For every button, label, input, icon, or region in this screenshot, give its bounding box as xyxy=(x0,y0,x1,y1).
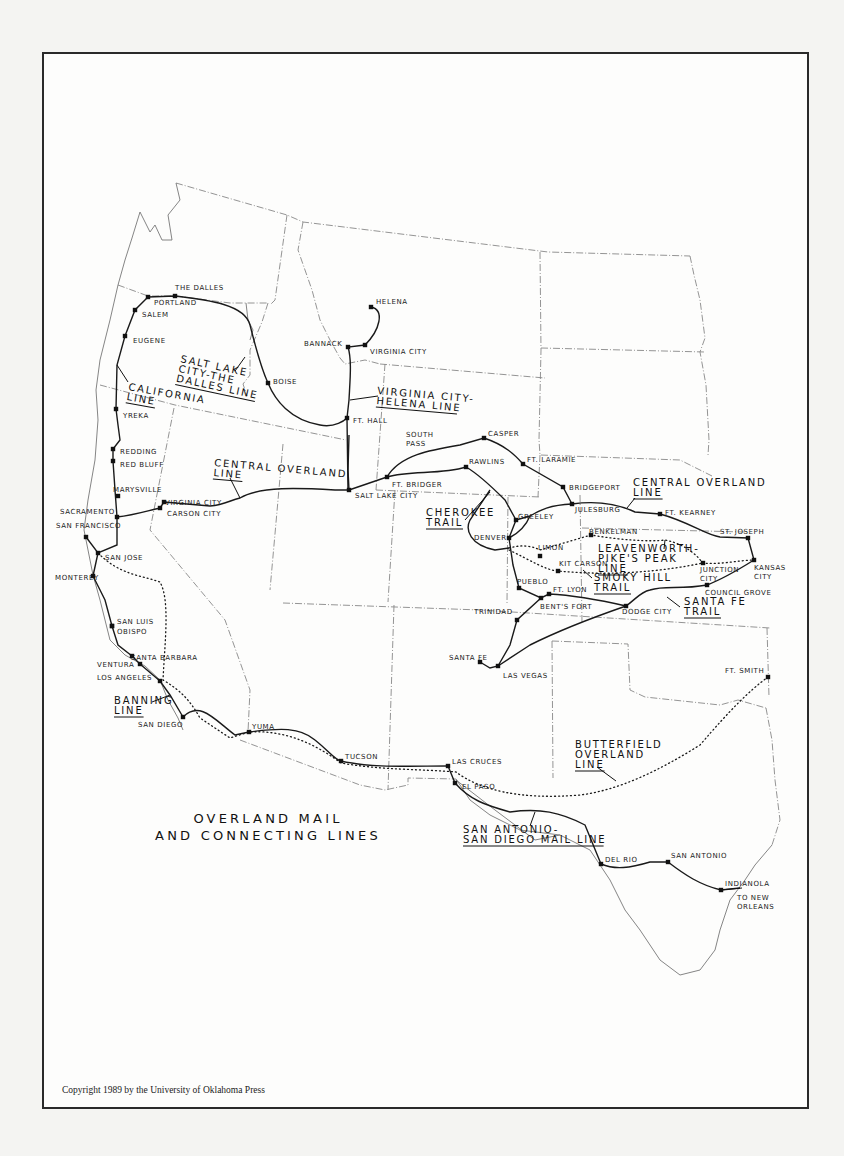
town-marker-icon xyxy=(547,592,551,596)
town-marker-icon xyxy=(116,494,120,498)
town-marker-icon xyxy=(158,679,162,683)
town-label: FT. SMITH xyxy=(725,667,764,675)
town-marker-icon xyxy=(181,715,185,719)
town-label: CITY xyxy=(700,575,718,583)
town-marker-icon xyxy=(453,781,457,785)
town-label: MARYSVILLE xyxy=(113,486,162,494)
town-marker-icon xyxy=(464,465,468,469)
town-label: VENTURA xyxy=(97,661,134,669)
town-label: CARSON CITY xyxy=(167,510,221,518)
town-label: SAN FRANCISCO xyxy=(56,522,121,530)
town-label: TO NEW xyxy=(736,894,769,902)
town-marker-icon xyxy=(146,295,150,299)
town-label: MONTEREY xyxy=(55,574,99,582)
town-label: SAN JOSE xyxy=(105,554,143,562)
town-marker-icon xyxy=(111,459,115,463)
svg-text:LINE: LINE xyxy=(575,759,605,770)
route-label-leavenworth: LEAVENWORTH-PIKE'S PEAKLINE xyxy=(598,543,700,575)
town-label: TRINIDAD xyxy=(473,608,513,616)
town-label: TUCSON xyxy=(344,753,378,761)
town-marker-icon xyxy=(599,862,603,866)
copyright-notice: Copyright 1989 by the University of Okla… xyxy=(62,1085,265,1095)
town-label: FT. LYON xyxy=(553,586,587,594)
svg-text:LINE: LINE xyxy=(633,487,663,498)
overland-mail-map: THE DALLESPORTLANDSALEMEUGENEHELENABANNA… xyxy=(0,0,844,1156)
town-label: CITY xyxy=(754,573,772,581)
town-marker-icon xyxy=(539,596,543,600)
town-label: LOS ANGELES xyxy=(97,674,152,682)
route-labels: SALT LAKECITY-THEDALLES LINECALIFORNIALI… xyxy=(114,353,766,846)
town-label: DODGE CITY xyxy=(622,608,672,616)
town-marker-icon xyxy=(496,664,500,668)
svg-text:SAN DIEGO MAIL LINE: SAN DIEGO MAIL LINE xyxy=(463,834,607,845)
town-label: SAN ANTONIO xyxy=(671,852,727,860)
town-marker-icon xyxy=(521,462,525,466)
town-marker-icon xyxy=(111,447,115,451)
svg-text:LINE: LINE xyxy=(114,705,144,716)
svg-text:TRAIL: TRAIL xyxy=(593,582,631,593)
route-label-cherokee: CHEROKEETRAIL xyxy=(425,507,495,529)
town-label: JULESBURG xyxy=(574,506,621,514)
title-line-1: OVERLAND MAIL xyxy=(193,811,342,826)
town-label: THE DALLES xyxy=(174,284,224,292)
title-line-2: AND CONNECTING LINES xyxy=(155,828,381,843)
route-label-butterfield: BUTTERFIELDOVERLANDLINE xyxy=(575,739,663,771)
map-title: OVERLAND MAIL AND CONNECTING LINES xyxy=(155,811,381,843)
town-marker-icon xyxy=(347,488,351,492)
town-label: RAWLINS xyxy=(469,458,505,466)
town-label: REDDING xyxy=(120,448,157,456)
town-label: PASS xyxy=(406,440,426,448)
town-marker-icon xyxy=(701,561,705,565)
town-marker-icon xyxy=(705,583,709,587)
town-marker-icon xyxy=(515,618,519,622)
town-marker-icon xyxy=(96,551,100,555)
town-marker-icon xyxy=(173,294,177,298)
route-label-santa-fe: SANTA FETRAIL xyxy=(683,596,747,618)
town-label: BENT'S FORT xyxy=(540,603,592,611)
town-marker-icon xyxy=(766,675,770,679)
route-label-banning: BANNINGLINE xyxy=(114,695,173,717)
town-label: LAS CRUCES xyxy=(452,758,502,766)
town-label: SALEM xyxy=(142,311,169,319)
town-marker-icon xyxy=(507,536,511,540)
town-marker-icon xyxy=(385,475,389,479)
town-marker-icon xyxy=(561,485,565,489)
town-marker-icon xyxy=(123,334,127,338)
town-marker-icon xyxy=(266,381,270,385)
town-marker-icon xyxy=(110,624,114,628)
town-label: EL PASO xyxy=(462,783,495,791)
town-label: HELENA xyxy=(376,298,408,306)
town-label: GREELEY xyxy=(518,513,554,521)
town-label: SOUTH xyxy=(406,431,434,439)
town-label: VIRGINIA CITY xyxy=(165,499,222,507)
town-label: CASPER xyxy=(488,430,519,438)
town-marker-icon xyxy=(133,308,137,312)
town-label: DENVER xyxy=(474,534,507,542)
town-label: SANTA FE xyxy=(449,654,488,662)
town-label: BANNACK xyxy=(304,340,342,348)
town-label: SANTA BARBARA xyxy=(131,654,198,662)
svg-text:LINE: LINE xyxy=(213,467,243,481)
town-label: SAN LUIS xyxy=(117,618,154,626)
town-marker-icon xyxy=(339,759,343,763)
route-label-virginia-helena: VIRGINIA CITY-HELENA LINE xyxy=(376,385,475,415)
town-marker-icon xyxy=(446,764,450,768)
town-marker-icon xyxy=(556,569,560,573)
town-marker-icon xyxy=(570,502,574,506)
town-label: YUMA xyxy=(251,723,275,731)
town-marker-icon xyxy=(138,662,142,666)
town-marker-icon xyxy=(345,416,349,420)
town-label: PORTLAND xyxy=(154,299,197,307)
town-label: PUEBLO xyxy=(517,578,548,586)
town-label: OBISPO xyxy=(117,628,147,636)
town-marker-icon xyxy=(84,535,88,539)
town-label: LAS VEGAS xyxy=(503,672,548,680)
town-marker-icon xyxy=(369,305,373,309)
town-label: BENKELMAN xyxy=(589,528,638,536)
town-label: EUGENE xyxy=(133,337,166,345)
town-marker-icon xyxy=(114,407,118,411)
town-marker-icon xyxy=(538,554,542,558)
town-marker-icon xyxy=(746,536,750,540)
route-label-smoky-hill: SMOKY HILLTRAIL xyxy=(593,572,672,594)
town-label: YREKA xyxy=(122,412,149,420)
